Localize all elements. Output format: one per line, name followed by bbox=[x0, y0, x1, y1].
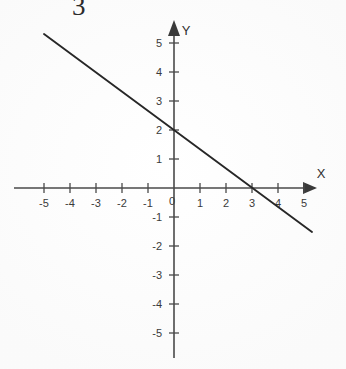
y-tick-label-2: 2 bbox=[156, 124, 162, 136]
y-tick-label-1: 1 bbox=[156, 153, 162, 165]
y-tick-label-neg1: -1 bbox=[152, 211, 162, 223]
x-tick-label-neg2: -2 bbox=[117, 197, 127, 209]
y-tick-label-4: 4 bbox=[156, 66, 162, 78]
plotted-line bbox=[44, 34, 312, 232]
x-axis-arrow-icon bbox=[303, 182, 317, 194]
y-tick-label-5: 5 bbox=[156, 37, 162, 49]
y-tick-label-neg5: -5 bbox=[152, 327, 162, 339]
graph-page: 3 -5 -4 -3 -2 -1 bbox=[0, 0, 346, 369]
x-tick-label-1: 1 bbox=[197, 197, 203, 209]
x-tick-label-3: 3 bbox=[249, 197, 255, 209]
x-tick-label-2: 2 bbox=[223, 197, 229, 209]
coordinate-plane: -5 -4 -3 -2 -1 0 1 2 3 4 5 5 4 3 2 1 -1 … bbox=[0, 0, 346, 369]
x-tick-label-neg4: -4 bbox=[65, 197, 75, 209]
x-tick-label-neg3: -3 bbox=[91, 197, 101, 209]
y-tick-label-neg2: -2 bbox=[152, 240, 162, 252]
y-tick-label-neg4: -4 bbox=[152, 298, 162, 310]
y-tick-label-neg3: -3 bbox=[152, 269, 162, 281]
origin-label: 0 bbox=[169, 195, 175, 207]
x-tick-label-neg1: -1 bbox=[143, 197, 153, 209]
x-tick-label-5: 5 bbox=[301, 197, 307, 209]
x-tick-label-neg5: -5 bbox=[39, 197, 49, 209]
y-axis-arrow-icon bbox=[168, 20, 180, 36]
y-axis-label: Y bbox=[182, 23, 191, 38]
y-tick-label-3: 3 bbox=[156, 95, 162, 107]
x-axis-label: X bbox=[317, 166, 326, 181]
